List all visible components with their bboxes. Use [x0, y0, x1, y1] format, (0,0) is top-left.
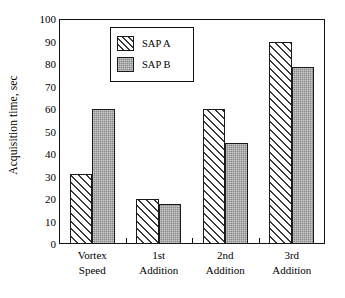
x-axis-tick-marks: [59, 238, 325, 246]
x-axis-tick-mark: [192, 238, 193, 243]
x-axis-category-label-line: Addition: [259, 263, 326, 278]
y-axis-tick-label: 80: [30, 59, 56, 70]
x-axis-category-label-line: Addition: [192, 263, 259, 278]
bar-sap-b: [292, 67, 315, 244]
x-axis-category-label: 2ndAddition: [192, 248, 259, 277]
y-axis-title-text: Acquisition time, sec: [7, 75, 19, 175]
bar-sap-b: [92, 109, 115, 244]
legend-label-sap-a: SAP A: [142, 38, 171, 49]
bar-sap-a: [269, 42, 292, 245]
y-axis-tick-label: 50: [30, 126, 56, 137]
x-axis-category-label-line: 2nd: [192, 248, 259, 263]
x-axis-tick-mark: [126, 238, 127, 243]
y-axis-tick-label: 100: [30, 14, 56, 25]
y-axis-title: Acquisition time, sec: [2, 0, 24, 250]
legend-label-sap-b: SAP B: [142, 59, 171, 70]
bar-chart-figure: Acquisition time, sec 010203040506070809…: [0, 0, 345, 298]
legend-entry-sap-a: SAP A: [117, 33, 187, 54]
y-axis-tick-label: 30: [30, 171, 56, 182]
bar-sap-a: [70, 174, 93, 244]
bar-sap-b: [225, 143, 248, 244]
x-axis-category-label-line: 1st: [126, 248, 193, 263]
x-axis-tick-mark: [259, 238, 260, 243]
x-axis-category-label: VortexSpeed: [59, 248, 126, 277]
x-axis-category-labels: VortexSpeed1stAddition2ndAddition3rdAddi…: [59, 248, 325, 290]
y-axis-tick-label: 10: [30, 216, 56, 227]
y-axis-tick-label: 0: [30, 239, 56, 250]
chart-legend: SAP A SAP B: [110, 27, 194, 82]
y-axis-tick-labels: 0102030405060708090100: [26, 19, 56, 244]
x-axis-category-label-line: Speed: [59, 263, 126, 278]
y-axis-tick-label: 90: [30, 36, 56, 47]
legend-swatch-sap-a: [117, 36, 134, 51]
x-axis-category-label: 1stAddition: [126, 248, 193, 277]
x-axis-category-label-line: Vortex: [59, 248, 126, 263]
y-axis-tick-label: 20: [30, 194, 56, 205]
legend-entry-sap-b: SAP B: [117, 54, 187, 75]
x-axis-category-label-line: Addition: [126, 263, 193, 278]
y-axis-tick-label: 60: [30, 104, 56, 115]
bar-sap-a: [203, 109, 226, 244]
legend-swatch-sap-b: [117, 57, 134, 72]
x-axis-category-label: 3rdAddition: [259, 248, 326, 277]
x-axis-category-label-line: 3rd: [259, 248, 326, 263]
y-axis-tick-label: 70: [30, 81, 56, 92]
y-axis-tick-label: 40: [30, 149, 56, 160]
